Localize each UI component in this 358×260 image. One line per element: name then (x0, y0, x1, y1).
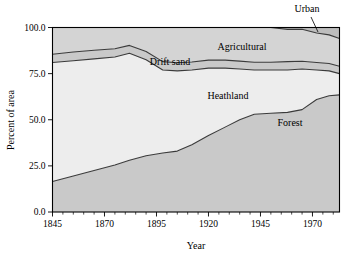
heathland-label: Heathland (207, 90, 248, 101)
area-chart: 184518701895192019451970 0.025.050.075.0… (0, 0, 358, 260)
y-tick-label: 75.0 (29, 69, 46, 79)
x-axis-title: Year (187, 240, 206, 251)
y-tick-label: 0.0 (34, 207, 46, 217)
drift-sand-label: Drift sand (150, 56, 190, 67)
y-tick-label: 50.0 (29, 115, 46, 125)
y-tick-label: 25.0 (29, 161, 46, 171)
x-tick-label: 1870 (95, 219, 114, 229)
x-tick-label: 1945 (251, 219, 270, 229)
x-tick-label: 1920 (199, 219, 218, 229)
x-tick-label: 1845 (43, 219, 62, 229)
x-tick-label: 1895 (147, 219, 166, 229)
forest-label: Forest (278, 117, 303, 128)
urban-label: Urban (295, 3, 320, 14)
x-tick-label: 1970 (303, 219, 322, 229)
y-axis-title: Percent of area (5, 89, 16, 150)
agricultural-label: Agricultural (218, 41, 267, 52)
chart-figure: 184518701895192019451970 0.025.050.075.0… (0, 0, 358, 260)
y-tick-label: 100.0 (24, 23, 46, 33)
